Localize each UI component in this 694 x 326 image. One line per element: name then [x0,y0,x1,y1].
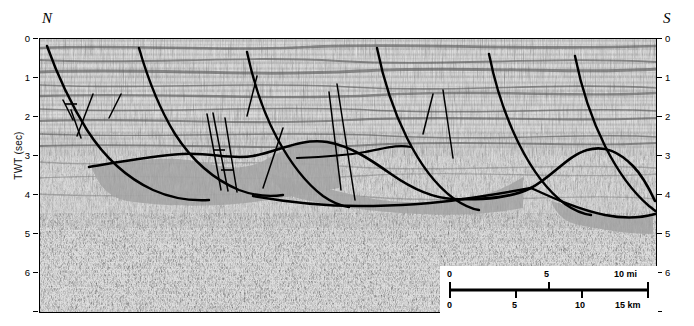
tick-label-right-5: 5 [665,229,679,239]
tick-label-right-3: 3 [665,151,679,161]
tick-label-right-0: 0 [665,34,679,44]
tick-right-0 [657,38,662,39]
scalebar-km-label-0: 0 [447,301,452,310]
tick-label-left-3: 3 [16,151,30,161]
scalebar-mi-label-0: 0 [447,270,452,279]
scalebar-km-label-5: 5 [512,301,517,310]
tick-left-4 [33,194,38,195]
tick-left-5 [33,233,38,234]
tick-left-0 [33,38,38,39]
tick-right-4 [657,194,662,195]
scalebar-km-label-15: 15 km [615,301,641,310]
tick-left-7 [33,311,38,312]
tick-label-left-5: 5 [16,229,30,239]
tick-label-left-4: 4 [16,190,30,200]
direction-label-south: S [663,11,671,26]
tick-left-1 [33,77,38,78]
scalebar-mi-label-5: 5 [544,270,549,279]
tick-label-right-4: 4 [665,190,679,200]
tick-label-right-2: 2 [665,112,679,122]
direction-label-north: N [42,11,52,26]
scalebar-ruler [440,281,658,299]
tick-label-right-6: 6 [665,268,679,278]
tick-right-3 [657,155,662,156]
tick-left-2 [33,116,38,117]
tick-label-left-1: 1 [16,73,30,83]
scalebar-mi-label-10: 10 mi [614,270,637,279]
tick-left-6 [33,272,38,273]
tick-label-left-2: 2 [16,112,30,122]
tick-right-1 [657,77,662,78]
tick-right-2 [657,116,662,117]
seismic-section-figure: N S TWT (sec) [0,0,694,326]
scale-bar: 0 5 10 mi 0 5 10 15 km [440,266,658,313]
tick-left-3 [33,155,38,156]
tick-label-left-0: 0 [16,34,30,44]
scalebar-km-label-10: 10 [575,301,585,310]
tick-label-right-1: 1 [665,73,679,83]
tick-right-5 [657,233,662,234]
tick-label-left-6: 6 [16,268,30,278]
